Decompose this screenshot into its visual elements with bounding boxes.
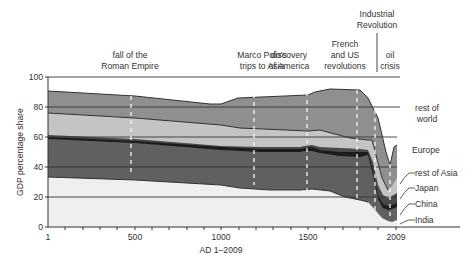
event-industrial-line2: Revolution bbox=[357, 20, 398, 30]
legend-rest-of-world-line2: world bbox=[416, 114, 438, 124]
gdp-share-chart: 100 80 60 40 20 0 1 500 1000 1500 2009 A… bbox=[0, 0, 475, 268]
x-tick-1: 1 bbox=[46, 232, 51, 242]
legend-china: China bbox=[415, 199, 438, 209]
event-revolutions-line2: and US bbox=[331, 50, 360, 60]
y-tick-100: 100 bbox=[29, 72, 44, 82]
legend-europe: Europe bbox=[412, 145, 440, 155]
y-tick-labels: 100 80 60 40 20 0 bbox=[29, 72, 44, 232]
event-revolutions-line3: revolutions bbox=[324, 61, 366, 71]
event-revolutions-line1: French bbox=[332, 39, 359, 49]
y-tick-0: 0 bbox=[38, 222, 43, 232]
y-tick-80: 80 bbox=[33, 102, 43, 112]
legend-rest-of-world-line1: rest of bbox=[415, 103, 439, 113]
legend-rest-of-asia: rest of Asia bbox=[415, 168, 458, 178]
y-tick-60: 60 bbox=[33, 132, 43, 142]
event-america-line1: discovery bbox=[271, 50, 308, 60]
area-bands bbox=[48, 89, 397, 227]
event-rome-line2: Roman Empire bbox=[101, 61, 159, 71]
x-axis-title: AD 1–2009 bbox=[199, 245, 242, 255]
y-tick-20: 20 bbox=[33, 192, 43, 202]
x-tick-500: 500 bbox=[128, 232, 143, 242]
x-tick-2009: 2009 bbox=[386, 232, 405, 242]
y-tick-40: 40 bbox=[33, 162, 43, 172]
legend-leader-lines bbox=[400, 173, 415, 224]
event-annotations: fall of the Roman Empire Marco Polo's tr… bbox=[101, 9, 399, 71]
event-oil-line1: oil bbox=[386, 50, 395, 60]
event-america-line2: of America bbox=[269, 61, 310, 71]
x-tick-1500: 1500 bbox=[298, 232, 317, 242]
x-tick-1000: 1000 bbox=[211, 232, 230, 242]
y-axis-title: GDP percentage share bbox=[15, 108, 25, 196]
legend-india: India bbox=[415, 215, 434, 225]
event-rome-line1: fall of the bbox=[113, 50, 148, 60]
event-oil-line2: crisis bbox=[380, 61, 400, 71]
event-industrial-line1: Industrial bbox=[360, 9, 395, 19]
x-tick-labels: 1 500 1000 1500 2009 bbox=[46, 232, 406, 242]
legend: rest of world Europe rest of Asia Japan … bbox=[400, 103, 458, 225]
legend-japan: Japan bbox=[415, 183, 439, 193]
